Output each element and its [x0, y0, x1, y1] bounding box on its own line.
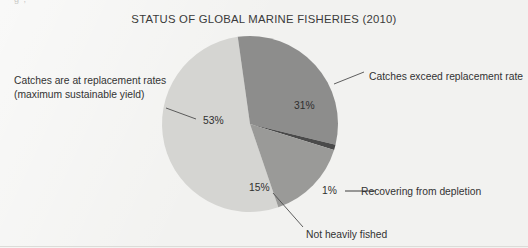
callout-replacement-rates-line2: (maximum sustainable yield) [14, 88, 166, 102]
leader-line-exceed-replacement [334, 72, 364, 84]
chart-page: g , STATUS OF GLOBAL MARINE FISHERIES (2… [0, 0, 528, 248]
callout-replacement-rates: Catches are at replacement rates (maximu… [14, 74, 166, 101]
page-bottom-rule [0, 246, 528, 247]
slice-value-not-heavily-fished: 15% [249, 182, 270, 193]
slice-value-recovering: 1% [322, 185, 337, 196]
callout-not-heavily-fished: Not heavily fished [306, 228, 387, 242]
callout-recovering-from-depletion: Recovering from depletion [361, 185, 481, 199]
callout-exceed-replacement: Catches exceed replacement rate [369, 70, 523, 84]
callout-replacement-rates-line1: Catches are at replacement rates [14, 74, 166, 88]
pie-chart-graphic [0, 0, 528, 248]
slice-value-exceed-replacement: 31% [294, 100, 315, 111]
slice-value-replacement-rates: 53% [203, 115, 224, 126]
